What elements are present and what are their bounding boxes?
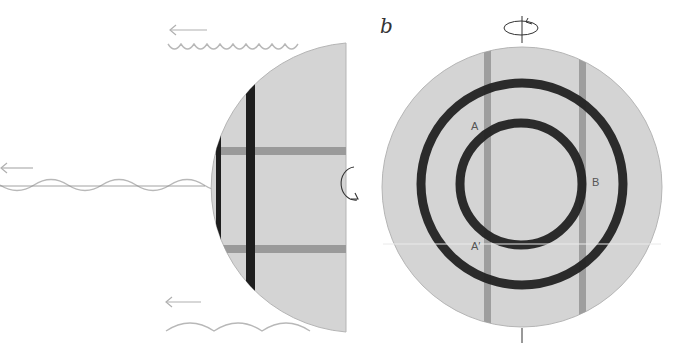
rotation-arrowhead-icon bbox=[526, 18, 532, 24]
arrow-left-icon bbox=[166, 297, 201, 307]
panel-b bbox=[382, 16, 662, 343]
panel-a bbox=[0, 25, 358, 332]
wave-middle bbox=[0, 180, 238, 191]
figure: b A B A′ bbox=[0, 0, 689, 350]
panel-label-b: b bbox=[380, 14, 393, 38]
rotation-axis-icon bbox=[504, 21, 538, 35]
hemisphere bbox=[211, 43, 346, 332]
wave-bottom bbox=[166, 323, 310, 331]
wave-top bbox=[168, 44, 298, 49]
horizontal-band-lower bbox=[200, 245, 346, 253]
point-label-a-prime: A′ bbox=[471, 240, 480, 252]
dark-bar-inner bbox=[246, 76, 255, 326]
point-label-b: B bbox=[592, 176, 599, 188]
arrow-left-icon bbox=[1, 163, 33, 173]
dark-bar-outer bbox=[216, 118, 221, 268]
point-label-a: A bbox=[471, 120, 478, 132]
horizontal-band-upper bbox=[200, 147, 346, 155]
arrow-left-icon bbox=[170, 25, 207, 35]
